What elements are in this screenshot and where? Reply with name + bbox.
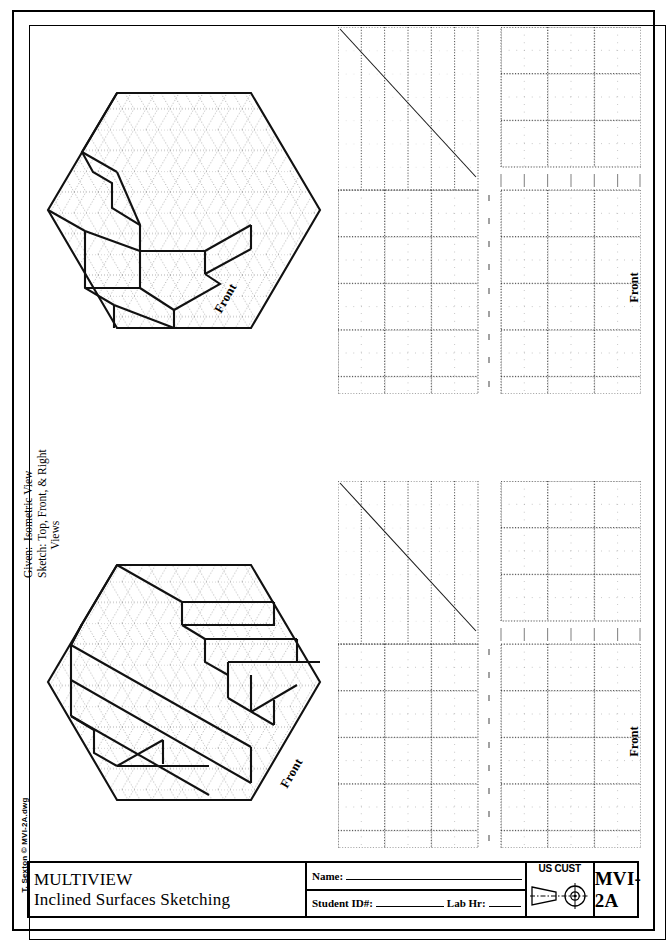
isometric-view-problem-2: Front [14, 540, 330, 860]
title-block-student-cell: Name: Student ID#: Lab Hr: [307, 863, 527, 916]
units-label: US CUST [538, 863, 581, 875]
multiview-grid-problem-1[interactable]: Front [338, 27, 641, 394]
lab-hr-label: Lab Hr: [447, 897, 486, 909]
title-block: MULTIVIEW Inclined Surfaces Sketching Na… [27, 861, 639, 918]
isometric-drawing-2 [14, 540, 330, 860]
student-id-row[interactable]: Student ID#: Lab Hr: [307, 891, 525, 917]
lab-hr-input[interactable] [489, 897, 521, 907]
title-block-projection-cell: US CUST [527, 863, 595, 916]
multiview-grid-svg-1[interactable] [338, 27, 641, 394]
name-label: Name: [312, 870, 343, 882]
worksheet-title-line1: MULTIVIEW [34, 870, 305, 890]
isometric-drawing-1 [14, 88, 330, 398]
name-row[interactable]: Name: [307, 863, 525, 891]
student-id-input[interactable] [376, 897, 444, 907]
isometric-view-problem-1: Front [14, 88, 330, 398]
multiview-front-label-1: Front [627, 268, 642, 308]
drawing-number: MVI-2A [595, 868, 642, 912]
third-angle-projection-icon [529, 875, 591, 916]
student-id-label: Student ID#: [312, 897, 373, 909]
multiview-front-label-2: Front [627, 722, 642, 762]
title-block-title-cell: MULTIVIEW Inclined Surfaces Sketching [29, 863, 307, 916]
multiview-grid-svg-2[interactable] [338, 481, 641, 848]
name-input[interactable] [346, 870, 521, 880]
multiview-grid-problem-2[interactable]: Front [338, 481, 641, 848]
worksheet-title-line2: Inclined Surfaces Sketching [34, 890, 305, 910]
title-block-number-cell: MVI-2A [595, 863, 642, 916]
